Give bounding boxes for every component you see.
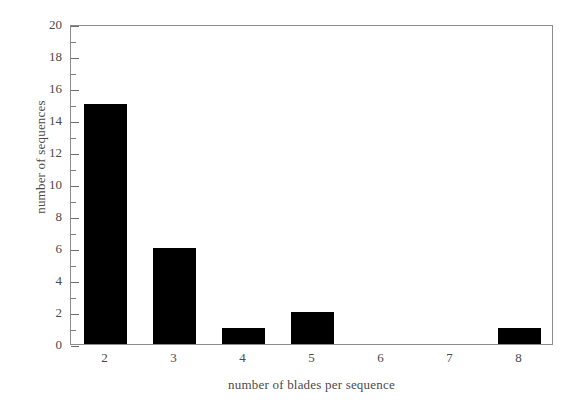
- plot-inner: [71, 26, 552, 344]
- y-axis-major-tick: [71, 218, 79, 219]
- bar-5: [291, 312, 334, 344]
- y-axis-minor-tick: [71, 138, 76, 139]
- y-axis-tick-label: 18: [22, 50, 62, 63]
- bar-2: [84, 104, 127, 344]
- y-axis-major-tick: [71, 314, 79, 315]
- y-axis-tick-label: 2: [22, 306, 62, 319]
- y-axis-major-tick: [71, 282, 79, 283]
- x-axis-title: number of blades per sequence: [70, 377, 553, 393]
- x-axis-tick-label: 3: [152, 351, 196, 364]
- bar-8: [498, 328, 541, 344]
- y-axis-tick-label: 4: [22, 274, 62, 287]
- y-axis-minor-tick: [71, 106, 76, 107]
- plot-area: [70, 25, 553, 345]
- x-axis-tick-label: 4: [221, 351, 265, 364]
- y-axis-minor-tick: [71, 234, 76, 235]
- y-axis-major-tick: [71, 186, 79, 187]
- y-axis-tick-label: 8: [22, 210, 62, 223]
- y-axis-major-tick: [71, 58, 79, 59]
- x-axis-tick-label: 6: [359, 351, 403, 364]
- y-axis-minor-tick: [71, 202, 76, 203]
- y-axis-minor-tick: [71, 170, 76, 171]
- y-axis-tick-label: 14: [22, 114, 62, 127]
- y-axis-major-tick: [71, 154, 79, 155]
- y-axis-minor-tick: [71, 298, 76, 299]
- y-axis-major-tick: [71, 122, 79, 123]
- x-axis-tick-label: 5: [290, 351, 334, 364]
- bar-4: [222, 328, 265, 344]
- y-axis-tick-label: 16: [22, 82, 62, 95]
- y-axis-minor-tick: [71, 42, 76, 43]
- y-axis-major-tick: [71, 250, 79, 251]
- y-axis-minor-tick: [71, 330, 76, 331]
- y-axis-tick-label: 0: [22, 338, 62, 351]
- y-axis-minor-tick: [71, 74, 76, 75]
- x-axis-tick-label: 8: [497, 351, 541, 364]
- y-axis-major-tick: [71, 90, 79, 91]
- bar-3: [153, 248, 196, 344]
- y-axis-tick-label: 10: [22, 178, 62, 191]
- y-axis-tick-label: 20: [22, 18, 62, 31]
- histogram-figure: number of sequences 02468101214161820 23…: [0, 0, 571, 412]
- x-axis-tick-label: 2: [83, 351, 127, 364]
- y-axis-major-tick: [71, 346, 79, 347]
- y-axis-tick-label: 6: [22, 242, 62, 255]
- y-axis-tick-label: 12: [22, 146, 62, 159]
- y-axis-minor-tick: [71, 266, 76, 267]
- y-axis-major-tick: [71, 26, 79, 27]
- x-axis-tick-label: 7: [428, 351, 472, 364]
